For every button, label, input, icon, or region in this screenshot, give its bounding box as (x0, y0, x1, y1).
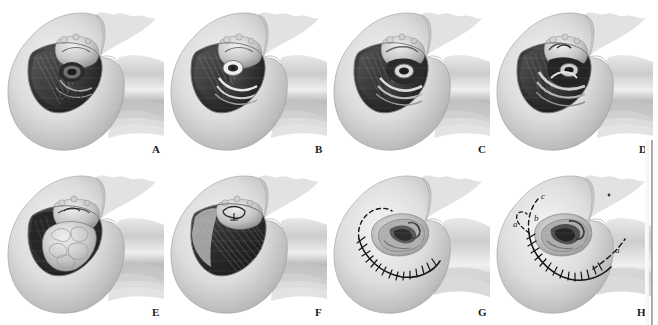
panel-letter-c: C (478, 143, 486, 155)
panel-e: E (0, 163, 164, 325)
annotation-label-a-anterior: a (513, 219, 518, 229)
panel-letter-e: E (152, 306, 160, 318)
panel-b: B (163, 0, 327, 162)
annotation-label-a-posterior: a (615, 245, 620, 255)
panel-f-illustration (163, 163, 327, 325)
panel-h: c b a a H (489, 163, 653, 325)
panel-c: C (326, 0, 490, 162)
panel-d-illustration (489, 0, 653, 162)
panel-g: G (326, 163, 490, 325)
panel-f: F (163, 163, 327, 325)
panel-c-illustration (326, 0, 490, 162)
panel-letter-b: B (315, 143, 323, 155)
panel-a-illustration (0, 0, 164, 162)
panel-h-illustration: c b a a (489, 163, 653, 325)
annotation-label-b: b (534, 213, 539, 223)
panel-letter-f: F (315, 306, 322, 318)
panel-g-illustration (326, 163, 490, 325)
panel-letter-a: A (152, 143, 160, 155)
page-edge-shadow (645, 140, 649, 325)
page-edge-line (651, 140, 653, 325)
annotation-label-c: c (541, 191, 545, 201)
panel-letter-g: G (478, 306, 487, 318)
panel-a: A (0, 0, 164, 162)
panel-d: D (489, 0, 653, 162)
panel-e-illustration (0, 163, 164, 325)
panel-b-illustration (163, 0, 327, 162)
figure-container: A (0, 0, 658, 325)
